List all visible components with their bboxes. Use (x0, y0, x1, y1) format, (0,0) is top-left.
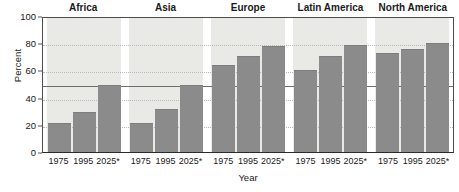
bar-north-america-1995[interactable] (401, 49, 424, 152)
bar-slot (262, 18, 285, 152)
bar-slot (180, 18, 203, 152)
x-tick-group-latin-america: 1975 1995 2025* (289, 155, 371, 169)
bar-slot (376, 18, 399, 152)
group-heading-europe: Europe (207, 0, 289, 15)
x-tick-group-europe: 1975 1995 2025* (207, 155, 289, 169)
y-tick-label-80: 80 (2, 39, 36, 49)
bar-group-row (43, 18, 453, 152)
bar-group-north-america (371, 18, 453, 152)
x-tick-label: 2025* (260, 155, 285, 169)
bar-slot (294, 18, 317, 152)
x-tick-label: 1975 (293, 155, 318, 169)
bar-africa-2025[interactable] (98, 85, 121, 152)
y-tick-label-20: 20 (2, 121, 36, 131)
grouped-bar-chart: Africa Asia Europe Latin America North A… (0, 0, 459, 192)
x-tick-label: 1975 (46, 155, 71, 169)
y-tick-label-0: 0 (2, 148, 36, 158)
x-tick-label: 1975 (211, 155, 236, 169)
y-tick-label-40: 40 (2, 94, 36, 104)
bar-latin-america-1975[interactable] (294, 70, 317, 152)
x-tick-label: 1995 (318, 155, 343, 169)
bar-asia-1995[interactable] (155, 109, 178, 152)
bar-europe-1995[interactable] (237, 56, 260, 152)
group-heading-row: Africa Asia Europe Latin America North A… (42, 0, 454, 15)
x-tick-label: 1975 (376, 155, 401, 169)
bar-africa-1995[interactable] (73, 112, 96, 152)
x-tick-label: 1995 (236, 155, 261, 169)
bar-group-europe (207, 18, 289, 152)
x-tick-label: 1995 (400, 155, 425, 169)
bar-slot (130, 18, 153, 152)
y-tick-label-60: 60 (2, 67, 36, 77)
plot-area (42, 17, 454, 153)
bar-north-america-1975[interactable] (376, 53, 399, 152)
group-heading-latin-america: Latin America (289, 0, 371, 15)
bar-north-america-2025[interactable] (426, 43, 449, 152)
bar-asia-2025[interactable] (180, 85, 203, 152)
bar-slot (344, 18, 367, 152)
bar-slot (426, 18, 449, 152)
x-tick-group-asia: 1975 1995 2025* (124, 155, 206, 169)
x-tick-label: 2025* (178, 155, 203, 169)
bar-europe-1975[interactable] (212, 65, 235, 152)
bar-europe-2025[interactable] (262, 46, 285, 152)
bar-slot (98, 18, 121, 152)
x-tick-label: 2025* (343, 155, 368, 169)
x-tick-label: 1995 (71, 155, 96, 169)
bar-group-asia (125, 18, 207, 152)
x-tick-group-north-america: 1975 1995 2025* (372, 155, 454, 169)
bar-slot (212, 18, 235, 152)
x-tick-label: 1995 (153, 155, 178, 169)
bar-slot (401, 18, 424, 152)
x-tick-label: 2025* (425, 155, 450, 169)
bar-group-latin-america (289, 18, 371, 152)
x-tick-group-africa: 1975 1995 2025* (42, 155, 124, 169)
y-tick-label-100: 100 (2, 12, 36, 22)
bar-slot (155, 18, 178, 152)
group-heading-africa: Africa (42, 0, 124, 15)
x-tick-label: 1975 (128, 155, 153, 169)
x-tick-label: 2025* (96, 155, 121, 169)
bar-slot (237, 18, 260, 152)
y-axis: 0 20 40 60 80 100 (0, 17, 42, 153)
bar-latin-america-2025[interactable] (344, 45, 367, 152)
bar-slot (73, 18, 96, 152)
bar-asia-1975[interactable] (130, 123, 153, 152)
bar-slot (48, 18, 71, 152)
bar-group-africa (43, 18, 125, 152)
bar-latin-america-1995[interactable] (319, 56, 342, 152)
x-axis-tick-row: 1975 1995 2025* 1975 1995 2025* 1975 199… (42, 155, 454, 169)
x-axis-title: Year (42, 172, 454, 183)
bar-slot (319, 18, 342, 152)
bar-africa-1975[interactable] (48, 123, 71, 152)
group-heading-north-america: North America (372, 0, 454, 15)
group-heading-asia: Asia (124, 0, 206, 15)
